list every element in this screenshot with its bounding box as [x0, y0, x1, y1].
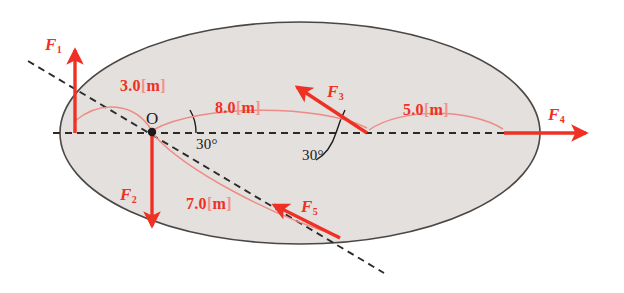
dimension-close-bracket-7m: ] — [226, 195, 232, 212]
dimension-value-3m: 3.0 — [120, 77, 141, 94]
dimension-close-bracket-5m: ] — [443, 101, 449, 118]
force-label-f1: F1 — [45, 36, 61, 53]
dimension-unit-3m: m — [147, 77, 161, 94]
force-label-f1-sub: 1 — [57, 44, 62, 55]
force-label-f2: F2 — [120, 186, 136, 203]
dimension-value-7m: 7.0 — [186, 195, 207, 212]
angle-label-f3: 30° — [302, 148, 324, 163]
angle-label-origin: 30° — [196, 137, 218, 152]
dimension-value-5m: 5.0 — [403, 101, 424, 118]
force-label-f4-sub: 4 — [560, 114, 565, 125]
force-label-f4-letter: F — [548, 105, 559, 124]
origin-label: O — [146, 110, 158, 127]
force-label-f5: F5 — [301, 198, 317, 215]
force-label-f3-sub: 3 — [339, 91, 344, 102]
dimension-unit-8m: m — [242, 99, 256, 116]
force-label-f2-sub: 2 — [132, 194, 137, 205]
dimension-value-8m: 8.0 — [215, 99, 236, 116]
dimension-close-bracket-3m: ] — [160, 77, 166, 94]
dimension-label-3m: 3.0[m] — [120, 78, 166, 94]
force-label-f5-sub: 5 — [313, 206, 318, 217]
dimension-label-7m: 7.0[m] — [186, 196, 232, 212]
dimension-label-8m: 8.0[m] — [215, 100, 261, 116]
force-diagram-figure: O F1 F2 F3 F4 F5 3.0[m] 8.0[m] 5.0[m] 7.… — [0, 0, 624, 293]
force-label-f3-letter: F — [327, 82, 338, 101]
force-label-f3: F3 — [327, 83, 343, 100]
force-label-f5-letter: F — [301, 197, 312, 216]
dimension-close-bracket-8m: ] — [255, 99, 261, 116]
dimension-unit-5m: m — [430, 101, 444, 118]
force-label-f2-letter: F — [120, 185, 131, 204]
dimension-unit-7m: m — [213, 195, 227, 212]
dimension-label-5m: 5.0[m] — [403, 102, 449, 118]
origin-point — [148, 128, 156, 136]
force-label-f4: F4 — [548, 106, 564, 123]
force-label-f1-letter: F — [45, 35, 56, 54]
